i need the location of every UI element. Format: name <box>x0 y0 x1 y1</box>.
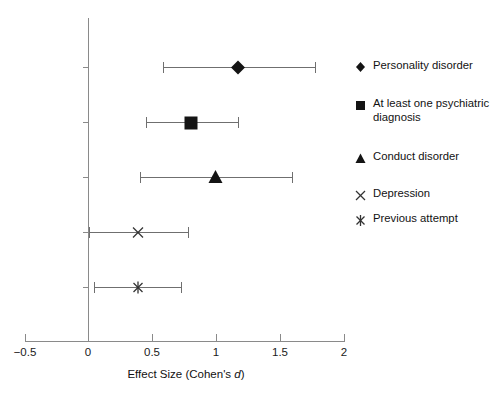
legend-label-previous-attempt: Previous attempt <box>373 212 458 226</box>
triangle-icon <box>354 151 367 165</box>
series-at-least-one-psychiatric-diagnosis <box>146 117 239 130</box>
series-personality-disorder <box>163 61 316 75</box>
asterisk-icon <box>354 213 367 227</box>
legend-label-depression: Depression <box>373 187 430 201</box>
x-tick-label-1.5: 1.5 <box>272 346 288 358</box>
series-depression <box>89 227 189 238</box>
legend-item-depression[interactable]: Depression <box>354 187 430 202</box>
x-tick-label-0.5: 0.5 <box>144 346 160 358</box>
x-tick-label--0.5: −0.5 <box>14 346 37 358</box>
x-tick-label-2: 2 <box>341 346 347 358</box>
marker-square-at-least-one-psychiatric-diagnosis <box>185 117 198 130</box>
marker-triangle-conduct-disorder <box>209 170 223 183</box>
square-icon <box>354 98 367 112</box>
legend-item-personality-disorder[interactable]: Personality disorder <box>354 59 473 74</box>
forest-plot-figure: −0.5 0 0.5 1 1.5 2 Effect Size (Cohen's … <box>0 0 492 404</box>
x-axis-title-tail: ) <box>241 368 245 380</box>
series-previous-attempt <box>94 282 182 294</box>
legend-item-previous-attempt[interactable]: Previous attempt <box>354 212 458 227</box>
x-axis-title-main: Effect Size (Cohen's <box>127 368 234 380</box>
series-conduct-disorder <box>140 170 293 183</box>
legend-label-personality-disorder: Personality disorder <box>373 59 473 73</box>
legend-item-at-least-one-psychiatric-diagnosis[interactable]: At least one psychiatric diagnosis <box>354 97 489 124</box>
legend-item-conduct-disorder[interactable]: Conduct disorder <box>354 150 459 165</box>
diamond-icon <box>354 60 367 74</box>
x-tick-label-1: 1 <box>213 346 219 358</box>
y-axis-group <box>83 18 89 341</box>
x-axis-group <box>25 334 345 342</box>
legend-label-conduct-disorder: Conduct disorder <box>373 150 459 164</box>
legend-label-at-least-one-psychiatric-diagnosis: At least one psychiatric diagnosis <box>373 97 489 124</box>
marker-diamond-personality-disorder <box>231 61 245 75</box>
x-tick-label-0: 0 <box>85 346 91 358</box>
x-axis-title: Effect Size (Cohen's d) <box>127 368 244 380</box>
cross-icon <box>354 188 367 202</box>
